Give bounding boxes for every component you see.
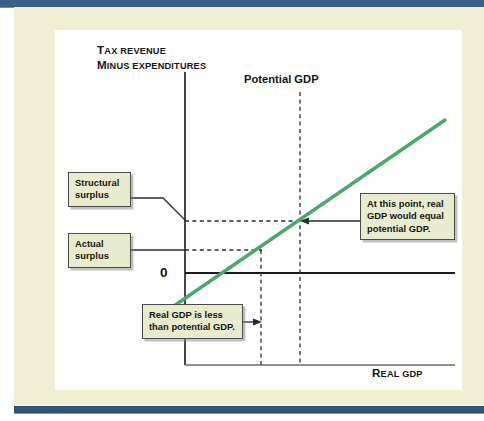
y-axis-title: TAX REVENUE MINUS EXPENDITURES — [97, 42, 206, 73]
chart-panel: TAX REVENUE MINUS EXPENDITURES REAL GDP … — [55, 30, 462, 390]
y-axis-title-line-2-initial: M — [97, 58, 107, 71]
figure-root: TAX REVENUE MINUS EXPENDITURES REAL GDP … — [0, 0, 484, 421]
callout-output-gap: Real GDP is less than potential GDP. — [142, 304, 243, 339]
callout-structural-surplus: Structural surplus — [68, 172, 131, 207]
origin-zero-label: 0 — [160, 265, 168, 280]
y-axis-title-line-2: MINUS EXPENDITURES — [97, 57, 206, 72]
potential-gdp-label: Potential GDP — [244, 73, 319, 85]
top-rule-divider — [0, 0, 484, 7]
bottom-rule-divider — [14, 406, 484, 413]
callout-intersection-point: At this point, real GDP would equal pote… — [360, 193, 455, 240]
x-axis-title-initial: R — [372, 366, 381, 379]
callout-actual-surplus: Actual surplus — [68, 233, 131, 268]
y-axis-title-line-1: TAX REVENUE — [97, 42, 206, 57]
x-axis-title: REAL GDP — [372, 365, 423, 380]
